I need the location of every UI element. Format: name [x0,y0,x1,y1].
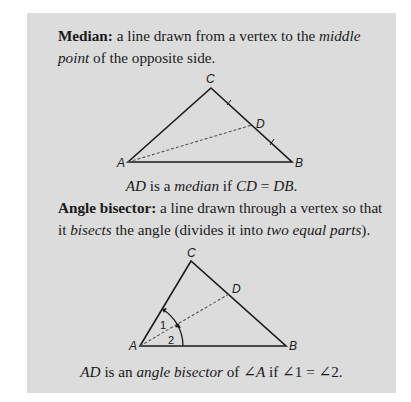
bisector-term: Angle bisector: [58,199,156,216]
median-line-AD [128,125,252,162]
median-triangle-figure: C D A B [116,72,303,170]
vertex-label-A: A [116,156,125,170]
vertex-label-A: A [128,339,137,353]
bisector-caption: AD is an angle bisector of ∠A if ∠1 = ∠2… [27,363,396,381]
angle-label-2: 2 [168,334,174,346]
bisector-triangle-figure: 1 2 C D A B [128,246,297,353]
vertex-label-D: D [256,117,265,131]
median-triangle [128,88,292,162]
vertex-label-C: C [187,246,196,260]
median-caption: AD is a median if CD = DB. [27,177,396,195]
bisector-definition-line1: Angle bisector: a line drawn through a v… [58,199,382,217]
bisector-definition-line2: it bisects the angle (divides it into tw… [58,221,370,239]
vertex-label-D: D [232,282,241,296]
vertex-label-B: B [295,156,303,170]
angle-label-1: 1 [160,319,166,331]
vertex-label-B: B [289,339,297,353]
vertex-label-C: C [206,72,215,86]
bisector-line-AD [140,294,229,346]
